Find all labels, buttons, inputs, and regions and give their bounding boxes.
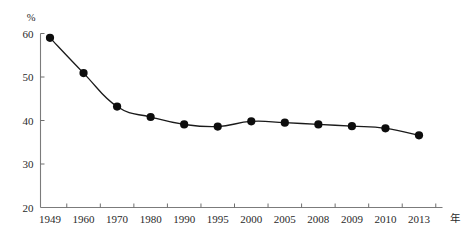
x-tick-label: 2005 (274, 213, 297, 225)
data-point (348, 122, 356, 130)
data-point (79, 69, 87, 77)
y-tick-label: 20 (23, 202, 35, 214)
x-tick-label: 2010 (374, 213, 397, 225)
data-point (247, 117, 255, 125)
x-tick-label: 1970 (106, 213, 129, 225)
data-point (46, 34, 54, 42)
y-tick-label: 50 (23, 71, 35, 83)
line-chart: % 年 2030405060 1949196019701980199019952… (0, 0, 472, 243)
y-tick-label: 40 (23, 115, 35, 127)
x-tick-label: 1949 (39, 213, 62, 225)
x-tick-label: 1990 (173, 213, 196, 225)
data-point (147, 113, 155, 121)
y-tick-label: 30 (23, 158, 35, 170)
x-tick-label: 1995 (207, 213, 230, 225)
x-axis-unit-label: 年 (450, 212, 460, 224)
data-point (180, 120, 188, 128)
x-tick-label: 1960 (73, 213, 96, 225)
y-tick-label: 60 (23, 28, 35, 40)
y-axis-unit-label: % (27, 12, 36, 23)
chart-background (0, 0, 472, 243)
data-point (381, 124, 389, 132)
data-point (214, 122, 222, 130)
data-point (281, 119, 289, 127)
x-tick-label: 2008 (307, 213, 330, 225)
data-point (415, 131, 423, 139)
data-point (314, 120, 322, 128)
x-tick-label: 2009 (341, 213, 364, 225)
x-tick-label: 2013 (408, 213, 431, 225)
x-tick-label: 2000 (240, 213, 263, 225)
x-tick-label: 1980 (140, 213, 163, 225)
data-point (113, 102, 121, 110)
chart-canvas: % 年 2030405060 1949196019701980199019952… (0, 0, 472, 243)
